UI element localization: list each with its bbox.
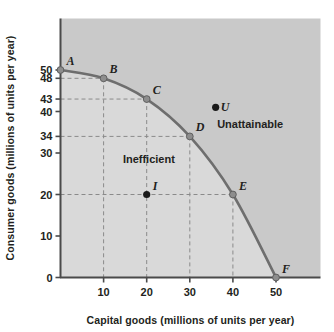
point-label-D: D [195,120,205,134]
point-label-C: C [153,83,162,97]
point-marker-I[interactable] [143,191,150,198]
x-axis-title: Capital goods (millions of units per yea… [87,314,295,326]
y-axis-title: Consumer goods (millions of units per ye… [4,36,16,261]
point-marker-C[interactable] [143,96,150,103]
point-marker-U[interactable] [212,104,219,111]
point-marker-E[interactable] [230,191,237,198]
y-tick-label-43: 43 [40,93,52,105]
annotation-unattainable: Unattainable [217,118,283,130]
annotation-inefficient: Inefficient [123,153,175,165]
y-tick-label-0: 0 [46,272,52,284]
point-label-F: F [281,262,290,276]
y-tick-label-34: 34 [40,130,53,142]
y-tick-label-30: 30 [40,147,52,159]
x-tick-label-30: 30 [184,286,196,298]
y-tick-label-20: 20 [40,189,52,201]
x-tick-label-20: 20 [141,286,153,298]
y-tick-label-50: 50 [40,64,52,76]
point-marker-A[interactable] [57,67,64,74]
y-tick-label-10: 10 [40,230,52,242]
point-label-U: U [221,100,231,114]
ppf-chart: 010203034404348501020304050UnattainableI… [0,0,334,332]
point-label-B: B [109,62,118,76]
point-label-A: A [66,54,75,68]
chart-canvas: 010203034404348501020304050UnattainableI… [0,0,334,332]
x-tick-label-40: 40 [227,286,239,298]
point-marker-F[interactable] [273,274,280,281]
point-label-E: E [238,179,247,193]
x-tick-label-50: 50 [270,286,282,298]
point-marker-B[interactable] [100,75,107,82]
x-tick-label-10: 10 [97,286,109,298]
y-tick-label-40: 40 [40,106,52,118]
point-marker-D[interactable] [186,133,193,140]
